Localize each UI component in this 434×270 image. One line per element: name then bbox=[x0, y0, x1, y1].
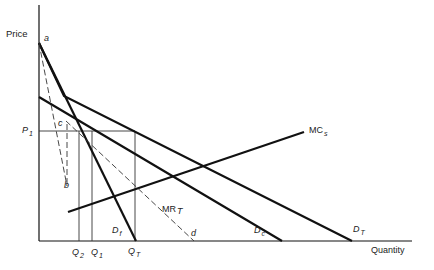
q2-label: Q2 bbox=[72, 248, 84, 257]
point-a-label: a bbox=[44, 34, 49, 43]
point-c-label: c bbox=[58, 119, 63, 128]
point-d-label: d bbox=[191, 229, 196, 238]
dc-curve bbox=[39, 97, 282, 241]
q1-label: Q1 bbox=[91, 248, 103, 257]
p1-sub: 1 bbox=[29, 130, 33, 137]
point-b-label: b bbox=[64, 181, 69, 190]
q2-main: Q bbox=[72, 247, 79, 257]
qt-sub: T bbox=[136, 251, 140, 258]
diagram-canvas bbox=[0, 0, 434, 270]
dc-main: D bbox=[254, 225, 261, 235]
x-axis-label: Quantity bbox=[371, 246, 405, 255]
mc-main: MC bbox=[309, 125, 323, 135]
mr-label: MRT bbox=[162, 205, 183, 214]
df-main: D bbox=[112, 225, 119, 235]
dc-label: Dc bbox=[254, 226, 265, 235]
y-axis-label: Price bbox=[6, 29, 28, 39]
mc-sub: s bbox=[324, 130, 328, 137]
dc-sub: c bbox=[262, 230, 266, 237]
dt-label: DT bbox=[353, 225, 365, 234]
q1-main: Q bbox=[91, 247, 98, 257]
dt-sub: T bbox=[361, 229, 365, 236]
df-label: Df bbox=[112, 226, 121, 235]
mc-label: MCs bbox=[309, 126, 328, 135]
ab-dashed-line bbox=[39, 43, 67, 186]
p1-label: P1 bbox=[22, 126, 33, 135]
p1-main: P bbox=[22, 125, 28, 135]
mr-sub: T bbox=[177, 206, 183, 216]
qt-label: QT bbox=[128, 247, 140, 256]
qt-main: Q bbox=[128, 246, 135, 256]
dt-curve bbox=[39, 43, 352, 241]
mr-curve bbox=[66, 121, 194, 241]
dt-main: D bbox=[353, 224, 360, 234]
mr-main: MR bbox=[162, 204, 176, 214]
q1-sub: 1 bbox=[99, 252, 103, 259]
q2-sub: 2 bbox=[80, 252, 84, 259]
